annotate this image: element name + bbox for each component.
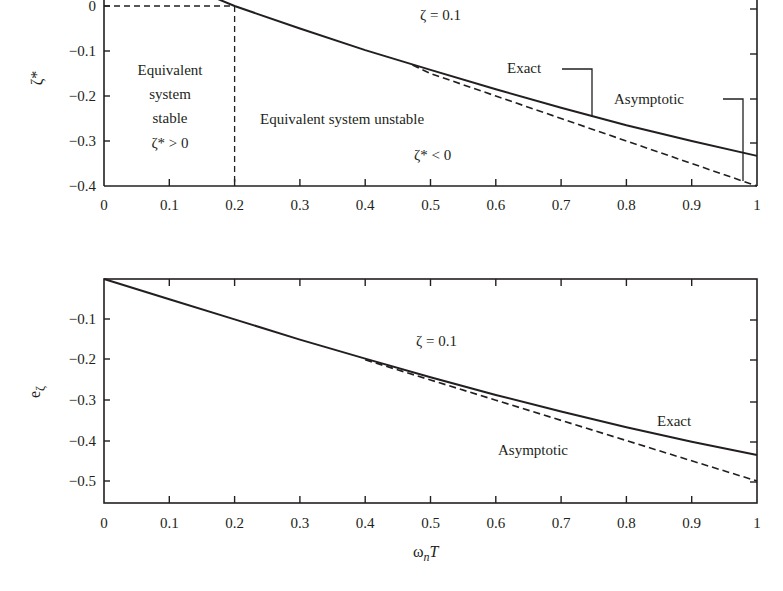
unstable-region-annotation: Equivalent system unstable ζ* < 0: [260, 111, 451, 163]
x-tick-label: 0.7: [552, 197, 571, 213]
bottom-chart-frame: [104, 279, 757, 503]
x-tick-label: 0.3: [291, 515, 310, 531]
stable-region-line: stable: [153, 110, 188, 126]
top-chart-y-tick-labels: 0 −0.1 −0.2 −0.3 −0.4: [69, 0, 97, 194]
unstable-region-line: ζ* < 0: [414, 147, 451, 163]
bottom-chart-y-axis-label: eζ: [26, 386, 47, 398]
top-exact-curve: [201, 0, 757, 156]
top-asymptotic-label: Asymptotic: [614, 91, 684, 107]
x-tick-label: 0.2: [225, 515, 244, 531]
y-tick-label: −0.1: [69, 43, 96, 59]
top-chart: 0 0.1 0.2 0.3 0.4 0.5 0.6 0.7 0.8 0.9 1 …: [28, 0, 761, 213]
x-tick-label: 0.9: [682, 515, 701, 531]
y-tick-label: −0.4: [69, 178, 97, 194]
x-tick-label: 0.4: [356, 515, 375, 531]
bottom-asymptotic-label: Asymptotic: [498, 442, 568, 458]
y-tick-label: −0.2: [69, 88, 96, 104]
asymptotic-leader-line: [723, 99, 743, 181]
top-exact-label: Exact: [507, 60, 542, 76]
x-tick-label: 0.3: [291, 197, 310, 213]
x-tick-label: 0.8: [617, 515, 636, 531]
stable-region-line: ζ* > 0: [151, 135, 188, 151]
y-tick-label: −0.5: [69, 473, 96, 489]
bottom-chart-x-ticks: [169, 279, 691, 503]
x-tick-label: 0.5: [421, 515, 440, 531]
x-tick-label: 1: [753, 197, 761, 213]
x-tick-label: 0.1: [160, 197, 179, 213]
top-zeta-annotation: ζ = 0.1: [420, 7, 461, 23]
x-tick-label: 0: [100, 515, 108, 531]
unstable-region-line: Equivalent system unstable: [260, 111, 424, 127]
x-tick-label: 0.9: [682, 197, 701, 213]
x-tick-label: 0.1: [160, 515, 179, 531]
x-tick-label: 0.7: [552, 515, 571, 531]
x-tick-label: 0.4: [356, 197, 375, 213]
bottom-exact-label: Exact: [657, 413, 692, 429]
x-tick-label: 0.6: [486, 515, 505, 531]
top-asymptotic-curve: [413, 65, 758, 186]
figure: 0 0.1 0.2 0.3 0.4 0.5 0.6 0.7 0.8 0.9 1 …: [0, 0, 783, 591]
bottom-zeta-annotation: ζ = 0.1: [416, 333, 457, 349]
stable-region-line: system: [149, 86, 191, 102]
y-tick-label: −0.4: [69, 433, 97, 449]
x-tick-label: 0.5: [421, 197, 440, 213]
bottom-asymptotic-curve: [365, 360, 757, 481]
y-tick-label: −0.1: [69, 311, 96, 327]
top-chart-x-tick-labels: 0 0.1 0.2 0.3 0.4 0.5 0.6 0.7 0.8 0.9 1: [100, 197, 761, 213]
top-chart-x-ticks: [169, 179, 691, 186]
x-tick-label: 0.2: [225, 197, 244, 213]
x-axis-label: ωnT: [413, 543, 440, 564]
bottom-chart-x-tick-labels: 0 0.1 0.2 0.3 0.4 0.5 0.6 0.7 0.8 0.9 1: [100, 515, 761, 531]
x-tick-label: 0.8: [617, 197, 636, 213]
stable-region-line: Equivalent: [138, 62, 204, 78]
stable-region-annotation: Equivalent system stable ζ* > 0: [138, 62, 204, 151]
x-tick-label: 1: [753, 515, 761, 531]
y-tick-label: 0: [89, 0, 97, 14]
bottom-chart: 0 0.1 0.2 0.3 0.4 0.5 0.6 0.7 0.8 0.9 1 …: [26, 279, 761, 564]
x-tick-label: 0: [100, 197, 108, 213]
top-chart-y-axis-label: ζ*: [28, 71, 46, 86]
y-tick-label: −0.2: [69, 351, 96, 367]
bottom-chart-y-tick-labels: −0.1 −0.2 −0.3 −0.4 −0.5: [69, 311, 97, 489]
y-tick-label: −0.3: [69, 133, 96, 149]
y-tick-label: −0.3: [69, 392, 96, 408]
x-tick-label: 0.6: [486, 197, 505, 213]
